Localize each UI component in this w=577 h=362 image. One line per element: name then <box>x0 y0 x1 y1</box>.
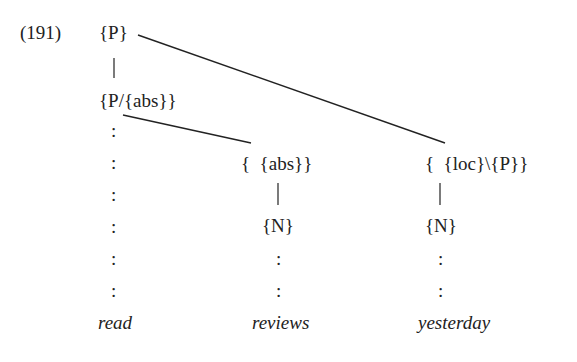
colon-yesterday-1: : <box>438 248 443 270</box>
word-read: read <box>98 312 132 334</box>
colon-read-6: : <box>111 280 116 302</box>
colon-reviews-2: : <box>276 280 281 302</box>
colon-read-1: : <box>111 120 116 142</box>
colon-read-5: : <box>111 248 116 270</box>
node-functor: {P/{abs}} <box>99 90 177 112</box>
word-reviews: reviews <box>252 312 309 334</box>
node-n-yesterday: {N} <box>425 215 457 237</box>
colon-read-4: : <box>111 216 116 238</box>
colon-read-3: : <box>111 184 116 206</box>
edge-functor-to-abs <box>123 115 251 143</box>
colon-yesterday-2: : <box>438 280 443 302</box>
node-loc: { {loc}\{P}} <box>425 153 528 175</box>
colon-read-2: : <box>111 152 116 174</box>
tree-edges <box>0 0 577 362</box>
node-abs: { {abs}} <box>241 153 312 175</box>
example-number: (191) <box>20 22 61 44</box>
word-yesterday: yesterday <box>418 312 490 334</box>
node-root: {P} <box>99 22 128 44</box>
node-n-reviews: {N} <box>262 215 294 237</box>
colon-reviews-1: : <box>276 248 281 270</box>
edge-root-to-loc <box>138 35 445 143</box>
